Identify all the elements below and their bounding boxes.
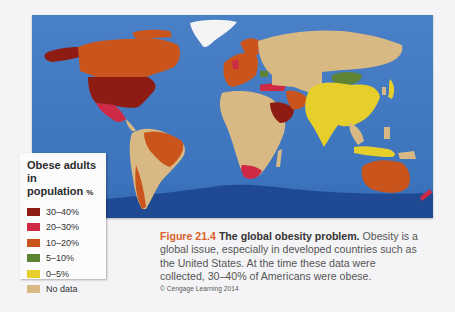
swatch-5-10 xyxy=(27,254,40,262)
korea xyxy=(382,87,386,95)
legend-item-30-40: 30–40% xyxy=(27,204,100,220)
caption-line-1: Obesity is a xyxy=(360,230,418,242)
legend-item-no-data: No data xyxy=(27,282,100,298)
figure-number: Figure 21.4 xyxy=(160,230,216,242)
caption-line-2: global issue, especially in developed co… xyxy=(160,243,417,255)
legend-title: Obese adults in population % xyxy=(27,159,100,199)
legend-item-20-30: 20–30% xyxy=(27,220,100,236)
caption-line-4: collected, 30–40% of Americans were obes… xyxy=(160,270,371,282)
swatch-0-5 xyxy=(27,270,40,278)
eastern-europe-green xyxy=(260,71,268,77)
swatch-20-30 xyxy=(27,223,40,231)
swatch-10-20 xyxy=(27,239,40,247)
legend: Obese adults in population % 30–40% 20–3… xyxy=(20,153,106,279)
copyright-credit: © Cengage Learning 2014 xyxy=(160,285,239,292)
legend-item-10-20: 10–20% xyxy=(27,235,100,251)
figure-caption: Figure 21.4 The global obesity problem. … xyxy=(160,230,450,284)
swatch-30-40 xyxy=(27,208,40,216)
swatch-no-data xyxy=(27,285,40,293)
legend-item-0-5: 0–5% xyxy=(27,266,100,282)
legend-item-5-10: 5–10% xyxy=(27,251,100,267)
philippines xyxy=(384,127,390,139)
figure-title: The global obesity problem. xyxy=(219,230,360,242)
caption-line-3: the United States. At the time these dat… xyxy=(160,257,376,269)
